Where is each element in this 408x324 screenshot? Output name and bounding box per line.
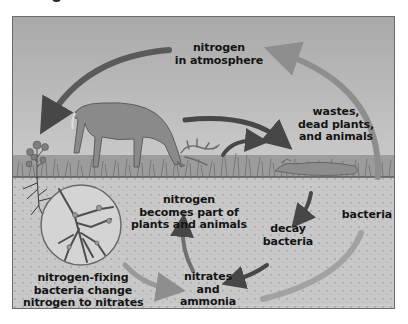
root-nodules-magnifier (41, 185, 121, 265)
label-nitrogen-in-atmosphere: nitrogen in atmosphere (164, 42, 274, 67)
label-nitrates-and-ammonia: nitrates and ammonia (173, 271, 243, 309)
nitrogen-cycle-diagram: nitrogen in atmosphere wastes, dead plan… (12, 16, 395, 309)
label-nitrogen-fixing-bacteria: nitrogen-fixing bacteria change nitrogen… (23, 272, 143, 309)
label-decay-bacteria: decay bacteria (253, 223, 323, 248)
label-wastes-dead-plants-animals: wastes, dead plants, and animals (296, 106, 376, 144)
label-nitrogen-becomes-part: nitrogen becomes part of plants and anim… (129, 194, 249, 232)
label-bacteria: bacteria (337, 209, 395, 222)
cropped-heading-fragment (52, 0, 61, 2)
